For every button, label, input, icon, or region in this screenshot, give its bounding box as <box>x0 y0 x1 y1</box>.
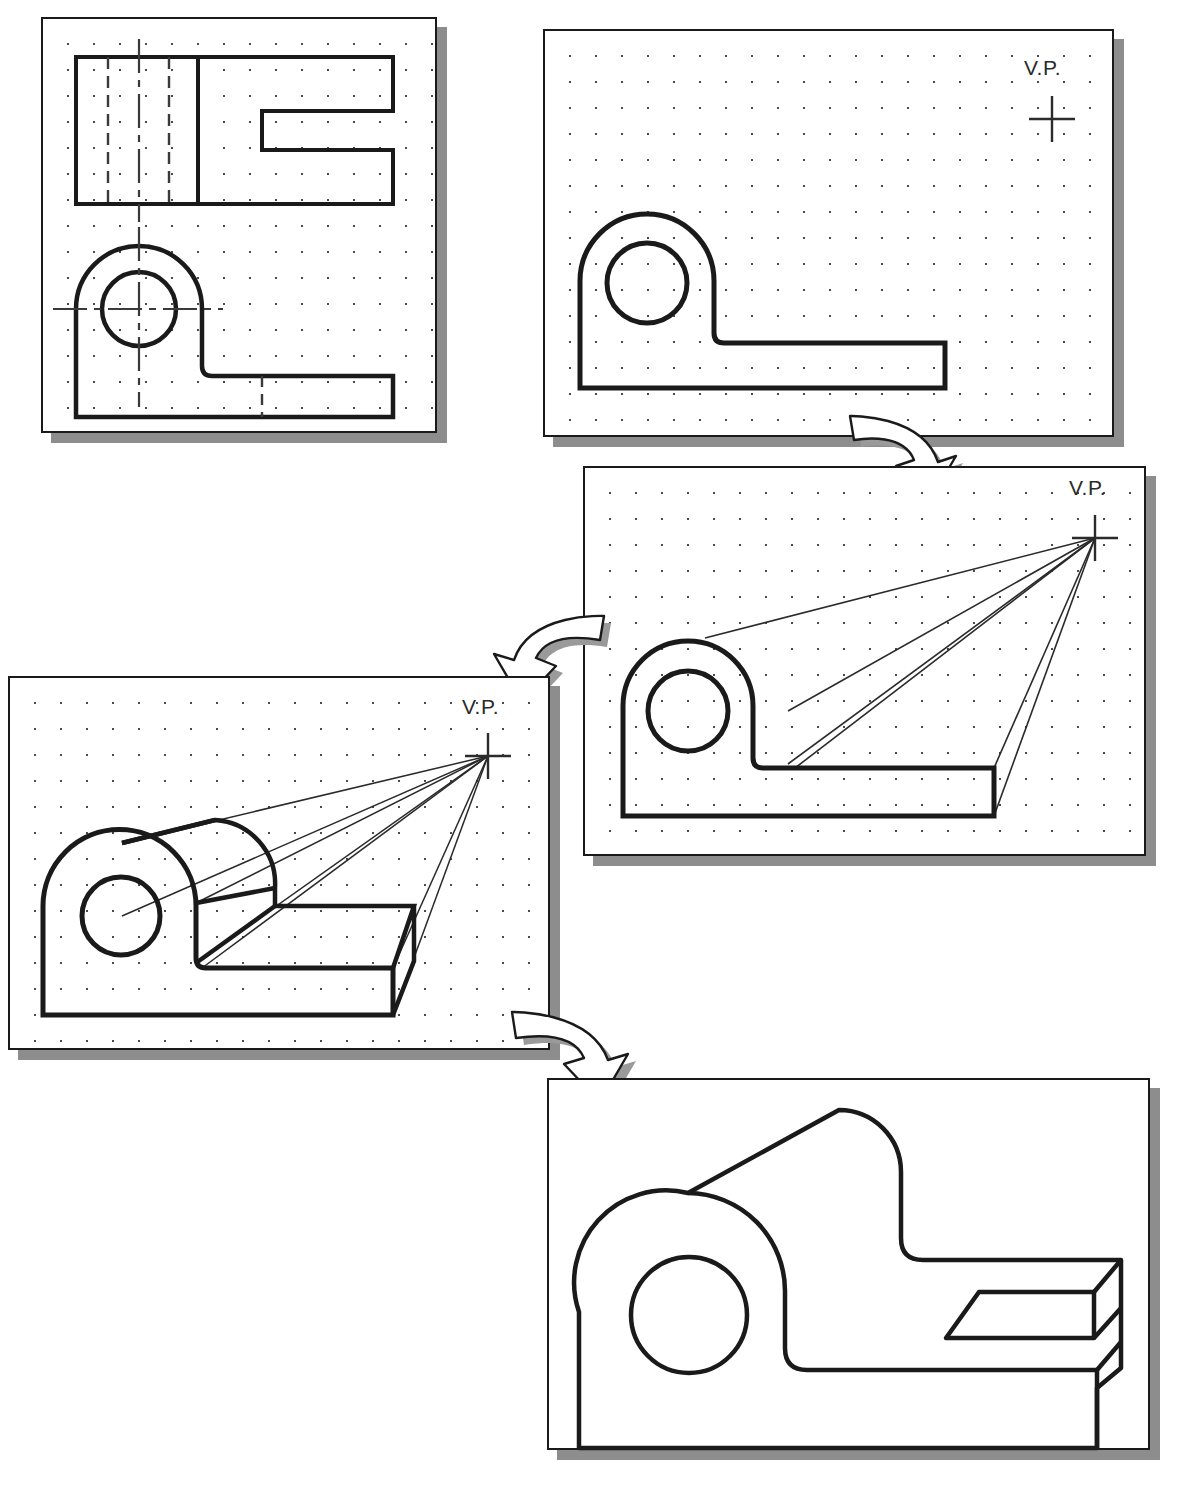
panel-orthographic-views[interactable] <box>41 17 437 433</box>
boss-front-curve <box>688 1193 1097 1370</box>
projection-lines-drawing <box>585 468 1144 854</box>
panel-final-pictorial[interactable] <box>547 1078 1150 1450</box>
ray-arm-end-top <box>994 538 1095 768</box>
ray-boss-right <box>788 538 1095 711</box>
vanishing-point-cross <box>465 733 511 779</box>
ray-step-corner <box>788 538 1095 764</box>
vanishing-point-cross <box>1072 515 1118 561</box>
vanishing-point-cross <box>1029 96 1075 142</box>
ray-arm-end-top <box>393 756 488 968</box>
receding-boss-back <box>196 888 275 903</box>
final-pictorial-drawing <box>549 1080 1148 1448</box>
depth-blocked-drawing <box>10 678 548 1048</box>
front-profile-drawing <box>545 31 1112 435</box>
base-block <box>1097 1342 1121 1448</box>
front-view-outline <box>76 246 393 417</box>
orthographic-drawing <box>43 19 435 431</box>
hole-circle <box>607 243 687 323</box>
front-view-outline <box>43 830 393 1016</box>
front-view-outline <box>580 214 945 388</box>
convergence-rays <box>705 538 1095 816</box>
vanishing-point-label: V.P. <box>1024 56 1061 80</box>
ray-boss-right-edge <box>196 756 488 903</box>
hole-circle <box>631 1257 747 1373</box>
panel-front-profile[interactable]: V.P. <box>543 29 1114 437</box>
hole-circle <box>82 877 160 955</box>
notch-detail <box>946 1260 1121 1338</box>
vanishing-point-label: V.P. <box>1069 476 1106 500</box>
convergence-rays <box>122 756 488 1015</box>
ray-arm-end-bottom <box>994 538 1095 816</box>
front-view-outline <box>623 641 994 816</box>
ray-arm-top <box>795 538 1095 768</box>
panel-projection-lines[interactable]: V.P. <box>583 466 1146 856</box>
step-top-receding <box>196 906 275 963</box>
vanishing-point-label: V.P. <box>462 695 499 719</box>
panel-depth-blocked[interactable]: V.P. <box>8 676 550 1050</box>
top-view-outline <box>76 57 393 204</box>
finished-solid-outline <box>574 1110 1121 1448</box>
hole-circle <box>648 671 728 751</box>
ray-top-of-boss <box>705 538 1095 638</box>
